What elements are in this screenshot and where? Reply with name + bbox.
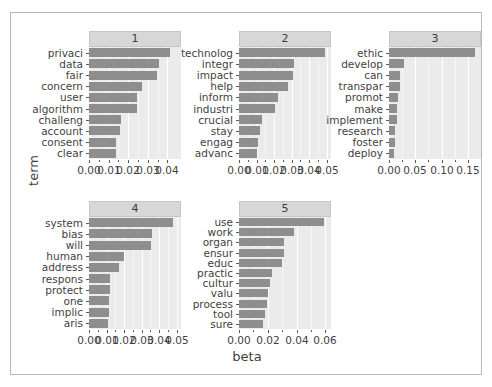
y-axis-tick-label: integr [202,59,233,69]
y-axis-tick-label: clear [57,148,83,158]
x-axis-tick-mark [89,330,90,333]
bar [89,71,157,80]
facet-panel-5: 5useworkorganensureducpracticculturvalup… [239,201,331,329]
bar [89,59,159,68]
bar [239,126,260,135]
y-axis-tick-labels: ethicdevelopcantransparpromotmakeimpleme… [327,47,389,159]
y-axis-tick-mark [86,301,89,302]
bar [239,104,275,113]
y-axis-tick-mark [236,131,239,132]
bar [239,93,278,102]
y-axis-tick-mark [236,293,239,294]
x-axis-minor-tick [98,330,99,332]
y-axis-tick-label: organ [203,237,233,247]
plot-area [239,217,331,329]
x-axis-tick-mark [89,160,90,163]
y-axis-tick-mark [236,324,239,325]
x-axis-tick-mark [325,330,326,333]
bar [239,300,267,308]
y-axis-tick-mark [86,131,89,132]
y-axis-tick-labels: technologintegrimpacthelpinformindustric… [177,47,239,159]
y-axis-tick-label: implic [52,307,83,317]
x-axis-minor-tick [265,160,266,162]
y-axis-tick-mark [386,142,389,143]
gridline-major [297,217,298,329]
y-axis-tick-label: deploy [348,148,383,158]
y-axis-tick-label: algorithm [32,104,83,114]
y-axis-tick-label: promot [345,92,383,102]
bar [389,149,394,158]
y-axis-tick-mark [236,97,239,98]
bar [89,48,170,57]
x-axis-tick-mark [239,330,240,333]
bar [89,285,110,294]
y-axis-tick-label: will [66,240,83,250]
y-axis-tick-label: make [354,104,383,114]
x-axis-tick-label: 0.02 [252,334,284,346]
x-axis-tick-mark [167,160,168,163]
bar [239,269,272,277]
y-axis-tick-mark [236,242,239,243]
x-axis-tick-mark [177,330,178,333]
x-axis-tick-mark [239,160,240,163]
x-axis-minor-tick [428,160,429,162]
x-axis-tick-mark [274,160,275,163]
y-axis-tick-label: concern [41,81,83,91]
bar [89,263,119,272]
bar [89,308,109,317]
facet-panel-1: 1privacidatafairconcernuseralgorithmchal… [89,31,181,159]
bar [89,126,120,135]
y-axis-tick-mark [236,263,239,264]
y-axis-tick-mark [86,86,89,87]
gridline-major [325,217,326,329]
bar [239,279,270,287]
y-axis-tick-mark [236,304,239,305]
y-axis-tick-label: user [60,92,83,102]
y-axis-tick-mark [86,323,89,324]
y-axis-tick-label: implement [326,115,383,125]
facet-panel-3: 3ethicdevelopcantransparpromotmakeimplem… [389,31,481,159]
bar [239,320,263,328]
x-axis-tick-mark [442,160,443,163]
y-axis-tick-mark [86,153,89,154]
plot-area [239,47,331,159]
y-axis-tick-mark [236,153,239,154]
y-axis-tick-label: one [63,296,83,306]
y-axis-tick-label: engag [200,137,233,147]
x-axis-tick-label: 0.04 [151,164,183,176]
y-axis-tick-mark [86,312,89,313]
y-axis-tick-mark [236,86,239,87]
bar [89,229,152,238]
bar [389,126,395,135]
x-axis-minor-tick [283,160,284,162]
y-axis-tick-label: consent [41,137,83,147]
bar [89,82,142,91]
y-axis-tick-mark [236,222,239,223]
x-axis-minor-tick [138,160,139,162]
x-axis-tick-mark [257,160,258,163]
bar [239,82,288,91]
y-axis-tick-label: data [59,59,83,69]
x-axis-tick-label: 0.06 [309,334,341,346]
y-axis-tick-label: human [46,251,83,261]
y-axis-tick-mark [236,232,239,233]
y-axis-tick-mark [86,120,89,121]
gridline-major [442,47,443,159]
x-axis-minor-tick [115,330,116,332]
y-axis-tick-label: sure [210,319,233,329]
y-axis-tick-label: industri [193,104,233,114]
gridline-minor [168,217,169,329]
y-axis-tick-mark [236,75,239,76]
bar [89,93,137,102]
y-axis-tick-mark [236,109,239,110]
y-axis-tick-label: stay [211,126,233,136]
bar [89,241,151,250]
bar [389,71,400,80]
y-axis-tick-label: bias [62,229,84,239]
y-axis-tick-mark [86,75,89,76]
y-axis-tick-label: system [45,218,83,228]
y-axis-tick-mark [86,142,89,143]
bar [239,138,258,147]
y-axis-tick-mark [86,53,89,54]
y-axis-tick-label: impact [197,70,233,80]
